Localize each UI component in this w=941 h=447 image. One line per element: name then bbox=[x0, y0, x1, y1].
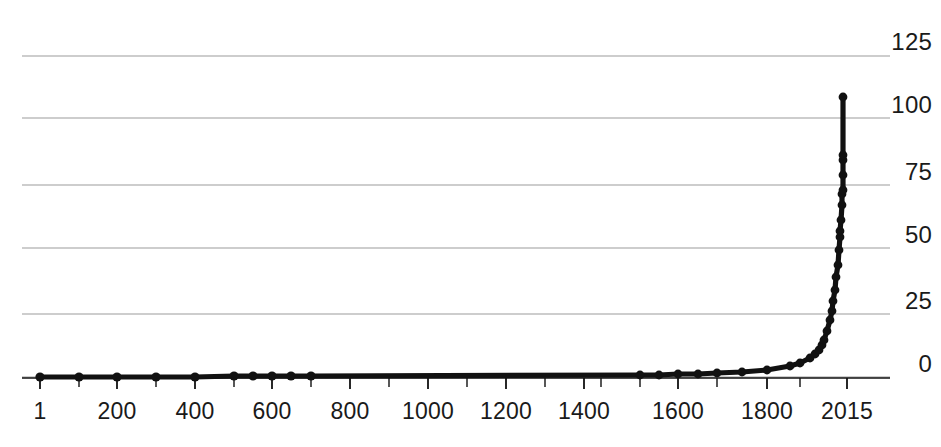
data-point bbox=[636, 371, 645, 380]
y-axis-tick-label-75: 75 bbox=[872, 160, 932, 184]
data-point bbox=[286, 371, 295, 380]
data-point bbox=[229, 371, 238, 380]
data-point bbox=[823, 327, 832, 336]
x-axis-tick-label-1000: 1000 bbox=[402, 400, 454, 423]
data-point bbox=[829, 297, 838, 306]
x-axis-tick-label-1400: 1400 bbox=[558, 400, 610, 423]
x-axis-tick-label-400: 400 bbox=[176, 400, 215, 423]
data-point bbox=[820, 336, 829, 345]
x-axis-tick-label-1600: 1600 bbox=[652, 400, 704, 423]
gridlines bbox=[22, 56, 890, 377]
data-point bbox=[839, 171, 848, 180]
data-point bbox=[837, 216, 846, 225]
x-axis-tick-label-2015: 2015 bbox=[821, 400, 873, 423]
y-axis-tick-label-0: 0 bbox=[872, 352, 932, 376]
x-axis-tick-label-1: 1 bbox=[34, 400, 47, 423]
data-point bbox=[828, 307, 837, 316]
data-point bbox=[190, 372, 199, 381]
data-line-population bbox=[40, 97, 843, 377]
data-point bbox=[306, 371, 315, 380]
data-point bbox=[74, 372, 83, 381]
x-axis-tick-label-800: 800 bbox=[331, 400, 370, 423]
data-point bbox=[151, 372, 160, 381]
data-point bbox=[713, 369, 722, 378]
data-point bbox=[839, 93, 848, 102]
x-axis-tick-label-200: 200 bbox=[98, 400, 137, 423]
y-axis-tick-label-50: 50 bbox=[872, 223, 932, 247]
data-point bbox=[835, 246, 844, 255]
data-point bbox=[796, 359, 805, 368]
data-point bbox=[834, 261, 843, 270]
data-point bbox=[694, 370, 703, 379]
data-point bbox=[836, 227, 845, 236]
data-point bbox=[655, 371, 664, 380]
data-point bbox=[763, 366, 772, 375]
y-axis-tick-label-100: 100 bbox=[872, 93, 932, 117]
data-point bbox=[831, 286, 840, 295]
chart-plot-area bbox=[0, 0, 941, 447]
data-point bbox=[35, 372, 44, 381]
x-axis-tick-label-1200: 1200 bbox=[480, 400, 532, 423]
data-point bbox=[674, 370, 683, 379]
y-axis-tick-label-25: 25 bbox=[872, 289, 932, 313]
data-point bbox=[267, 371, 276, 380]
data-point bbox=[838, 201, 847, 210]
x-axis-tick-label-600: 600 bbox=[253, 400, 292, 423]
data-point bbox=[738, 368, 747, 377]
data-markers-population bbox=[35, 93, 847, 382]
x-axis-ticks bbox=[40, 378, 847, 389]
y-axis-tick-label-125: 125 bbox=[872, 30, 932, 54]
data-point bbox=[786, 362, 795, 371]
data-point bbox=[826, 316, 835, 325]
population-growth-chart: 1251007550250 12004006008001000120014001… bbox=[0, 0, 941, 447]
x-axis-tick-label-1800: 1800 bbox=[741, 400, 793, 423]
data-point bbox=[112, 372, 121, 381]
data-point bbox=[832, 273, 841, 282]
data-point bbox=[248, 371, 257, 380]
data-point bbox=[839, 151, 848, 160]
data-point bbox=[839, 186, 848, 195]
